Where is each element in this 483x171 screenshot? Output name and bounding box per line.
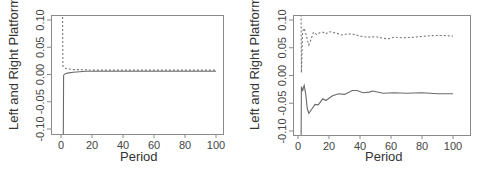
- x-tick-label: 20: [86, 139, 98, 151]
- plot-area: -0.10-0.050.000.050.10020406080100: [34, 9, 225, 151]
- x-tick-label: 0: [58, 139, 64, 151]
- y-tick-label: -0.10: [276, 118, 288, 143]
- series-left-platform-solid: [301, 86, 453, 143]
- y-tick-label: 0.00: [276, 65, 288, 86]
- y-tick-label: 0.00: [34, 64, 46, 85]
- y-axis-label-right: Left and Right Platforms: [247, 0, 262, 130]
- x-axis-label-right: Period: [365, 149, 403, 164]
- x-tick-label: 80: [179, 139, 191, 151]
- y-tick-label: 0.10: [276, 9, 288, 30]
- x-tick-label: 20: [323, 140, 335, 152]
- series-right-platform-dashed: [63, 9, 217, 70]
- x-tick-label: 80: [416, 140, 428, 152]
- plot-frame: [294, 16, 471, 136]
- y-tick-label: 0.05: [276, 37, 288, 58]
- chart-panel-left: -0.10-0.050.000.050.10020406080100 Left …: [0, 0, 241, 171]
- line-chart-left: -0.10-0.050.000.050.10020406080100: [0, 0, 241, 171]
- y-tick-label: -0.10: [34, 116, 46, 141]
- x-tick-label: 0: [295, 140, 301, 152]
- line-chart-right: -0.10-0.050.000.050.10020406080100: [241, 0, 483, 171]
- series-left-platform-solid: [63, 71, 216, 140]
- x-axis-label-left: Period: [120, 149, 158, 164]
- x-tick-label: 100: [444, 140, 462, 152]
- chart-panel-right: -0.10-0.050.000.050.10020406080100 Left …: [241, 0, 482, 171]
- series-right-platform-dashed: [301, 15, 453, 73]
- plot-area: -0.10-0.050.000.050.10020406080100: [276, 9, 471, 152]
- y-axis-label-left: Left and Right Platforms: [6, 0, 21, 130]
- y-tick-label: -0.05: [276, 91, 288, 116]
- plot-frame: [52, 16, 224, 135]
- y-tick-label: 0.10: [34, 9, 46, 30]
- y-tick-label: 0.05: [34, 37, 46, 58]
- x-tick-label: 100: [207, 139, 225, 151]
- y-tick-label: -0.05: [34, 89, 46, 114]
